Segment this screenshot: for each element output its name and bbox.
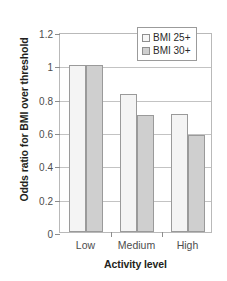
bar-groups: [60, 34, 211, 232]
y-axis-tick-label: 0.6: [39, 129, 53, 140]
bar: [171, 114, 188, 232]
bar-group: [69, 34, 103, 232]
y-axis-tick-label: 0.2: [39, 195, 53, 206]
y-axis-tick-label: 0.4: [39, 162, 53, 173]
legend-item: BMI 30+: [142, 44, 191, 57]
bar-group: [171, 34, 205, 232]
bar-chart-figure: Odds ratio for BMI over threshold 00.20.…: [0, 0, 227, 281]
light-gray-swatch: [142, 34, 150, 42]
x-axis-tick: [162, 232, 163, 237]
x-axis-tick: [111, 232, 112, 237]
dark-gray-swatch: [142, 47, 150, 55]
chart-legend: BMI 25+BMI 30+: [137, 27, 197, 61]
bar: [86, 65, 103, 232]
y-axis-tick: [55, 234, 60, 235]
x-axis-title: Activity level: [59, 258, 212, 270]
bar: [137, 115, 154, 232]
x-axis-tick-label: Medium: [118, 239, 155, 251]
bar-group: [120, 34, 154, 232]
x-axis-tick-label: High: [177, 239, 199, 251]
y-axis-tick-label: 0: [47, 229, 53, 240]
y-axis-tick-label: 1.2: [39, 29, 53, 40]
legend-item-label: BMI 25+: [153, 32, 191, 43]
bar: [188, 135, 205, 232]
x-axis-tick-label: Low: [76, 239, 95, 251]
y-axis-tick-label: 1: [47, 62, 53, 73]
y-axis-tick-label: 0.8: [39, 95, 53, 106]
plot-area: 00.20.40.60.811.2 LowMediumHigh: [59, 33, 212, 233]
legend-item-label: BMI 30+: [153, 45, 191, 56]
y-axis-title: Odds ratio for BMI over threshold: [16, 3, 32, 236]
bar: [69, 65, 86, 232]
bar: [120, 94, 137, 232]
legend-item: BMI 25+: [142, 31, 191, 44]
